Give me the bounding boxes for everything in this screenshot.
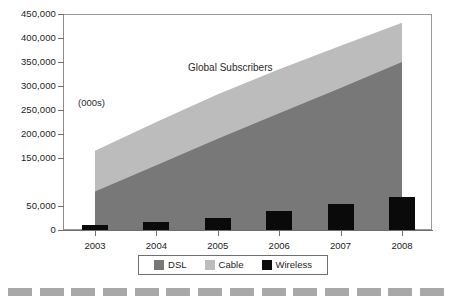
wireless-bar <box>328 204 354 230</box>
dash-segment <box>198 288 222 296</box>
wireless-bar <box>143 222 169 230</box>
x-axis-tick-label: 2004 <box>146 240 167 251</box>
legend-item: DSL <box>154 260 186 270</box>
dash-segment <box>71 288 95 296</box>
y-axis-tick <box>58 62 64 63</box>
legend-label: Wireless <box>276 260 312 270</box>
y-axis-tick-label: 50,000 <box>26 201 56 211</box>
y-axis-tick-label: 200,000 <box>21 129 56 139</box>
x-axis-tick <box>218 230 219 236</box>
y-axis-tick-label: 150,000 <box>21 153 56 163</box>
y-axis-tick <box>58 134 64 135</box>
y-axis-tick <box>58 38 64 39</box>
chart-figure: 450,000400,000350,000300,000250,000200,0… <box>0 0 451 304</box>
legend-item: Cable <box>205 260 244 270</box>
y-axis-tick <box>58 14 64 15</box>
x-axis-tick <box>95 230 96 236</box>
decorative-dashed-rule <box>8 288 444 296</box>
x-axis-tick-label: 2008 <box>391 240 412 251</box>
units-annotation: (000s) <box>78 97 105 108</box>
legend-swatch <box>262 260 272 270</box>
wireless-bar <box>389 197 415 230</box>
y-axis-tick <box>58 86 64 87</box>
y-axis-tick-label: 0 <box>51 225 56 235</box>
dash-segment <box>103 288 127 296</box>
legend-swatch <box>205 260 215 270</box>
wireless-bar <box>266 211 292 230</box>
x-axis-tick-label: 2005 <box>207 240 228 251</box>
x-axis-tick-label: 2007 <box>330 240 351 251</box>
dash-segment <box>8 288 32 296</box>
y-axis-tick <box>58 206 64 207</box>
dash-segment <box>230 288 254 296</box>
y-axis-tick-label: 350,000 <box>21 57 56 67</box>
chart-legend: DSLCableWireless <box>138 255 328 275</box>
legend-swatch <box>154 260 164 270</box>
dash-segment <box>166 288 190 296</box>
stacked-area-plot <box>63 14 432 231</box>
legend-label: Cable <box>219 260 244 270</box>
dash-segment <box>420 288 444 296</box>
dash-segment <box>262 288 286 296</box>
y-axis-tick <box>58 158 64 159</box>
dash-segment <box>293 288 317 296</box>
legend-item: Wireless <box>262 260 312 270</box>
x-axis-line <box>63 230 433 231</box>
y-axis-tick-label: 250,000 <box>21 105 56 115</box>
dash-segment <box>135 288 159 296</box>
legend-label: DSL <box>168 260 186 270</box>
y-axis-tick <box>58 110 64 111</box>
y-axis-tick <box>58 230 64 231</box>
dash-segment <box>357 288 381 296</box>
dash-segment <box>388 288 412 296</box>
y-axis-tick-label: 300,000 <box>21 81 56 91</box>
x-axis-tick <box>341 230 342 236</box>
wireless-bar <box>82 225 108 230</box>
x-axis-tick <box>156 230 157 236</box>
dash-segment <box>40 288 64 296</box>
x-axis-tick <box>279 230 280 236</box>
dash-segment <box>325 288 349 296</box>
x-axis-tick-label: 2006 <box>269 240 290 251</box>
x-axis-tick-label: 2003 <box>84 240 105 251</box>
wireless-bar <box>205 218 231 230</box>
y-axis-line <box>63 14 64 231</box>
y-axis-tick-label: 400,000 <box>21 33 56 43</box>
x-axis-tick <box>402 230 403 236</box>
y-axis-tick-label: 450,000 <box>21 9 56 19</box>
plot-title: Global Subscribers <box>188 62 272 74</box>
